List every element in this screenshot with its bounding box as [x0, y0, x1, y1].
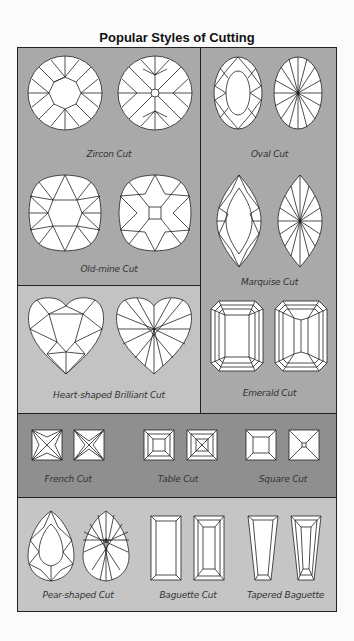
panel-oval-marquise-emerald: Oval Cut Marquise Cut — [201, 48, 337, 414]
tapered-baguette-bottom-icon — [290, 515, 322, 581]
baguette-top-icon — [150, 515, 182, 581]
square-bottom-icon — [288, 429, 320, 461]
panel-zircon-oldmine: Zircon Cut Old-mine Cut — [18, 48, 201, 286]
pear-bottom-icon — [82, 510, 130, 582]
panel-pear-baguette-tapered: Pear-shaped Cut Baguette Cut — [18, 498, 337, 612]
label-zircon: Zircon Cut — [18, 149, 200, 159]
panel-heart: Heart-shaped Brilliant Cut — [18, 286, 201, 414]
pear-top-icon — [27, 510, 75, 582]
marquise-bottom-icon — [277, 174, 323, 268]
label-tapered-baguette: Tapered Baguette — [233, 590, 337, 600]
label-table: Table Cut — [128, 474, 228, 484]
label-emerald: Emerald Cut — [201, 388, 337, 398]
emerald-bottom-icon — [274, 300, 328, 372]
label-marquise: Marquise Cut — [201, 277, 337, 287]
tapered-baguette-top-icon — [247, 515, 279, 581]
cuts-chart: Zircon Cut Old-mine Cut — [17, 47, 337, 612]
label-heart: Heart-shaped Brilliant Cut — [18, 390, 200, 400]
table-top-icon — [143, 429, 175, 461]
label-old-mine: Old-mine Cut — [18, 264, 200, 274]
heart-top-icon — [27, 296, 105, 376]
oval-top-icon — [213, 56, 263, 130]
label-baguette: Baguette Cut — [138, 590, 238, 600]
baguette-bottom-icon — [193, 515, 225, 581]
french-bottom-icon — [73, 429, 105, 461]
old-mine-top-icon — [27, 174, 103, 252]
panel-french-table-square: French Cut Table Cut Square Cut — [18, 414, 337, 498]
zircon-bottom-icon — [117, 55, 193, 131]
label-pear: Pear-shaped Cut — [18, 590, 138, 600]
french-top-icon — [31, 429, 63, 461]
label-french: French Cut — [18, 474, 118, 484]
oval-bottom-icon — [273, 56, 323, 130]
emerald-top-icon — [210, 300, 264, 372]
heart-bottom-icon — [115, 296, 193, 376]
square-top-icon — [245, 429, 277, 461]
zircon-top-icon — [27, 55, 103, 131]
page-title: Popular Styles of Cutting — [0, 30, 354, 45]
marquise-top-icon — [216, 174, 262, 268]
old-mine-bottom-icon — [117, 174, 193, 252]
table-bottom-icon — [186, 429, 218, 461]
label-oval: Oval Cut — [201, 149, 337, 159]
label-square: Square Cut — [233, 474, 333, 484]
